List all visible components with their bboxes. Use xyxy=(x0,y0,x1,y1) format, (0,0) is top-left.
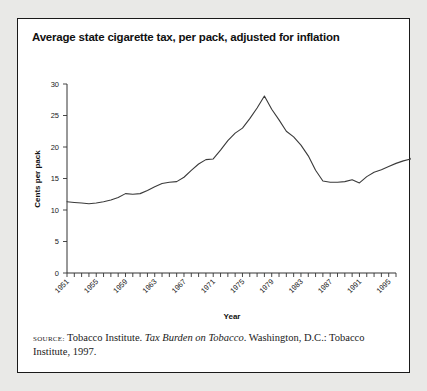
x-tick-label: 1951 xyxy=(53,277,71,295)
x-tick-label: 1959 xyxy=(111,277,129,295)
figure-panel: Average state cigarette tax, per pack, a… xyxy=(17,18,410,373)
x-tick-label: 1995 xyxy=(374,277,392,295)
source-publisher: Tobacco Institute. xyxy=(67,332,142,343)
x-tick-label: 1987 xyxy=(316,277,334,295)
y-tick-label: 30 xyxy=(51,80,59,89)
x-tick-label: 1991 xyxy=(345,277,363,295)
x-axis-ticks xyxy=(67,273,396,277)
x-tick-label: 1975 xyxy=(228,277,246,295)
x-axis-title: Year xyxy=(224,312,241,321)
y-axis-tick-labels: 051015202530 xyxy=(51,80,59,278)
source-label: Source: xyxy=(33,335,65,343)
x-tick-label: 1967 xyxy=(170,277,188,295)
x-tick-label: 1971 xyxy=(199,277,217,295)
source-note: Source: Tobacco Institute. Tax Burden on… xyxy=(33,331,393,359)
y-tick-label: 20 xyxy=(51,143,59,152)
x-tick-label: 1963 xyxy=(140,277,158,295)
y-tick-label: 15 xyxy=(51,174,59,183)
x-tick-label: 1983 xyxy=(287,277,305,295)
y-tick-label: 10 xyxy=(51,206,59,215)
y-tick-label: 25 xyxy=(51,111,59,120)
x-tick-label: 1979 xyxy=(257,277,275,295)
y-axis-title: Cents per pack xyxy=(33,150,42,208)
chart-plot-area: 051015202530 195119551959196319671971197… xyxy=(18,19,411,374)
x-axis-tick-labels: 1951195519591963196719711975197919831987… xyxy=(53,277,393,295)
source-title: Tax Burden on Tobacco xyxy=(145,332,244,343)
line-chart-svg: 051015202530 195119551959196319671971197… xyxy=(18,19,411,374)
data-series-line xyxy=(67,96,411,204)
y-tick-label: 0 xyxy=(55,269,59,278)
x-tick-label: 1955 xyxy=(82,277,100,295)
y-axis-ticks xyxy=(63,84,67,273)
y-tick-label: 5 xyxy=(55,237,59,246)
